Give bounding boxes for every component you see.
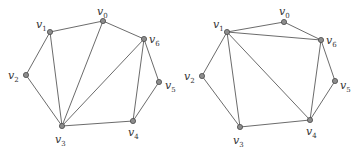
vertex-v4	[307, 117, 312, 122]
vertex-v2	[199, 73, 204, 78]
vertex-label-v5: v5	[340, 79, 351, 94]
vertex-label-v4: v4	[128, 126, 139, 141]
vertex-v1	[47, 29, 52, 34]
vertex-label-v3: v3	[55, 133, 66, 148]
vertex-label-subscript: 0	[285, 12, 289, 20]
edge-v6-v3	[62, 39, 144, 126]
vertex-label-subscript: 3	[239, 141, 243, 149]
vertex-label-v1: v1	[36, 18, 47, 33]
vertex-v3	[59, 123, 64, 128]
vertex-label-v5: v5	[165, 79, 176, 94]
vertex-label-v6: v6	[326, 34, 337, 49]
vertex-label-v3: v3	[233, 134, 244, 149]
graphs-layer: v0v1v2v3v4v5v6v0v1v2v3v4v5v6	[8, 5, 351, 149]
vertex-label-subscript: 5	[346, 86, 350, 94]
edge-v0-v3	[62, 21, 103, 126]
edge-v1-v4	[227, 32, 310, 120]
vertex-label-subscript: 2	[190, 77, 194, 85]
triangulation-diagram: v0v1v2v3v4v5v6v0v1v2v3v4v5v6	[0, 0, 354, 149]
edge-v0-v1	[227, 22, 284, 32]
vertex-label-subscript: 0	[103, 12, 107, 20]
vertex-v3	[237, 124, 242, 129]
vertex-label-subscript: 4	[312, 132, 317, 140]
vertex-v6	[318, 37, 323, 42]
right-triangulation: v0v1v2v3v4v5v6	[184, 5, 351, 149]
vertex-label-subscript: 1	[42, 25, 46, 33]
edge-v6-v4	[133, 39, 144, 121]
vertex-v2	[23, 72, 28, 77]
vertex-label-v2: v2	[8, 69, 19, 84]
edge-v0-v1	[50, 21, 103, 32]
vertex-v5	[156, 79, 161, 84]
vertex-v6	[141, 36, 146, 41]
edge-v1-v2	[202, 32, 227, 76]
vertex-v1	[224, 29, 229, 34]
edge-v3-v4	[240, 120, 310, 127]
left-triangulation: v0v1v2v3v4v5v6	[8, 5, 176, 148]
vertex-v0	[281, 19, 286, 24]
vertex-label-v6: v6	[149, 33, 160, 48]
vertex-label-v2: v2	[184, 70, 195, 85]
edge-v6-v0	[103, 21, 144, 39]
edge-v6-v4	[310, 40, 321, 120]
vertex-label-subscript: 3	[61, 140, 65, 148]
vertex-label-subscript: 4	[134, 133, 139, 141]
vertex-label-v1: v1	[213, 18, 224, 33]
vertex-label-subscript: 2	[14, 76, 18, 84]
vertex-label-subscript: 1	[219, 25, 223, 33]
vertex-v4	[130, 118, 135, 123]
vertex-label-v0: v0	[279, 5, 290, 20]
vertex-label-subscript: 6	[155, 40, 160, 48]
vertex-label-subscript: 5	[171, 86, 175, 94]
edge-v1-v2	[26, 32, 50, 75]
edge-v3-v4	[62, 121, 133, 126]
edge-v4-v5	[133, 82, 159, 121]
vertex-label-v4: v4	[306, 125, 317, 140]
vertex-v5	[332, 78, 337, 83]
edge-v4-v5	[310, 81, 335, 120]
vertex-label-subscript: 6	[332, 41, 337, 49]
vertex-label-v0: v0	[97, 5, 108, 20]
